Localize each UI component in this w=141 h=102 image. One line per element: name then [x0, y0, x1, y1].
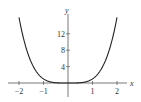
x-tick-label: 1: [91, 87, 95, 96]
y-tick-label: 12: [57, 30, 65, 39]
y-axis-label: y: [64, 6, 69, 15]
x-axis-label: x: [129, 79, 134, 88]
x-tick-label: −2: [15, 87, 24, 96]
y-tick-label: 4: [61, 63, 65, 72]
y-tick-label: 8: [61, 46, 65, 55]
tick-labels: −2−1124812: [15, 30, 119, 96]
x-tick-label: 2: [115, 87, 119, 96]
x-tick-label: −1: [39, 87, 48, 96]
plot-area: −2−1124812 x y: [0, 0, 141, 102]
